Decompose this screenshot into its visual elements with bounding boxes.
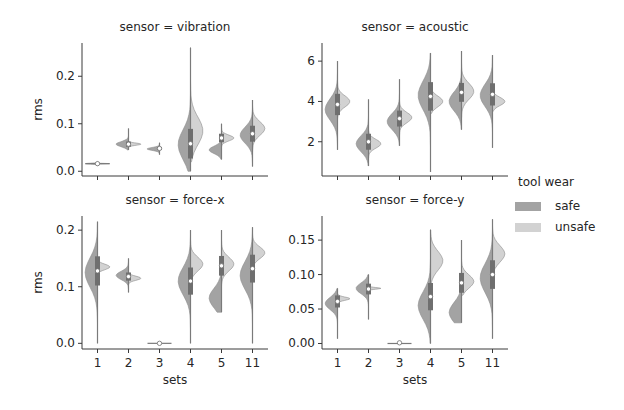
violin-half-safe (418, 53, 430, 172)
median-marker (428, 294, 432, 298)
median-marker (335, 299, 339, 303)
legend-title: tool wear (518, 175, 574, 189)
median-marker (219, 136, 223, 140)
violin-set-5 (449, 240, 474, 323)
y-tick-label: 0.1 (56, 280, 75, 294)
median-marker (459, 281, 463, 285)
x-tick-label: 11 (245, 356, 260, 370)
median-marker (95, 269, 99, 273)
median-marker (250, 266, 254, 270)
panel-force-y: sensor = force-y0.000.050.100.151234511s… (288, 193, 508, 387)
x-tick-label: 3 (156, 356, 164, 370)
y-axis-label: rms (31, 98, 45, 121)
x-tick-label: 4 (187, 356, 195, 370)
y-axis-label: rms (31, 271, 45, 294)
violin-set-11 (240, 227, 265, 343)
violin-half-safe (209, 129, 221, 160)
y-tick-label: 0.0 (56, 164, 75, 178)
violin-set-1 (85, 222, 110, 344)
violin-half-safe (356, 275, 368, 320)
median-marker (397, 341, 401, 345)
panel-title: sensor = acoustic (361, 20, 468, 34)
violin-set-2 (356, 99, 381, 166)
violin-set-4 (178, 230, 203, 343)
median-marker (188, 142, 192, 146)
y-tick-label: 0.15 (288, 233, 315, 247)
panel-acoustic: sensor = acoustic246 (307, 20, 508, 180)
violin-set-5 (449, 51, 474, 130)
median-marker (366, 287, 370, 291)
y-tick-label: 0.0 (56, 336, 75, 350)
violin-half-safe (240, 227, 252, 343)
panel-title: sensor = force-x (125, 193, 224, 207)
x-tick-label: 5 (458, 356, 466, 370)
violin-set-11 (480, 219, 505, 338)
violin-set-1 (85, 161, 110, 165)
violin-set-5 (209, 124, 234, 160)
median-marker (219, 264, 223, 268)
median-marker (188, 279, 192, 283)
median-marker (366, 140, 370, 144)
y-tick-label: 0.2 (56, 223, 75, 237)
violin-set-3 (388, 341, 412, 345)
violin-set-2 (356, 275, 381, 320)
median-marker (397, 116, 401, 120)
legend-label-unsafe: unsafe (555, 220, 595, 234)
y-tick-label: 0.05 (288, 302, 315, 316)
y-tick-label: 0.1 (56, 117, 75, 131)
violin-set-11 (480, 55, 505, 148)
median-marker (250, 132, 254, 136)
median-marker (126, 274, 130, 278)
violin-set-2 (116, 258, 141, 292)
violin-set-4 (418, 53, 442, 172)
violin-set-1 (325, 288, 350, 338)
panel-vibration: sensor = vibration0.00.10.2rms (31, 20, 268, 180)
violin-set-3 (148, 341, 172, 345)
median-marker (126, 142, 130, 146)
legend-label-safe: safe (555, 199, 580, 213)
median-marker (428, 94, 432, 98)
median-marker (490, 92, 494, 96)
x-axis-label: sets (403, 373, 428, 387)
legend-swatch-safe (515, 202, 541, 211)
y-tick-label: 0.10 (288, 268, 315, 282)
median-marker (335, 102, 339, 106)
x-tick-label: 2 (125, 356, 133, 370)
x-tick-label: 3 (396, 356, 404, 370)
panel-force-x: sensor = force-x0.00.10.2rms1234511sets (31, 193, 268, 387)
median-marker (490, 272, 494, 276)
x-tick-label: 1 (94, 356, 102, 370)
y-tick-label: 0.00 (288, 336, 315, 350)
x-tick-label: 5 (218, 356, 226, 370)
x-tick-label: 2 (365, 356, 373, 370)
violin-set-1 (325, 61, 350, 150)
legend-swatch-unsafe (515, 223, 541, 232)
x-tick-label: 4 (427, 356, 435, 370)
median-marker (157, 146, 161, 150)
median-marker (157, 341, 161, 345)
violin-set-4 (418, 230, 443, 344)
median-marker (459, 90, 463, 94)
panel-title: sensor = force-y (366, 193, 465, 207)
violin-set-3 (387, 79, 412, 146)
y-tick-label: 6 (307, 54, 315, 68)
y-tick-label: 4 (307, 94, 315, 108)
y-tick-label: 0.2 (56, 69, 75, 83)
violin-half-safe (356, 99, 368, 166)
violin-set-4 (178, 48, 203, 172)
violin-set-2 (116, 129, 141, 150)
violin-set-3 (147, 143, 162, 155)
x-axis-label: sets (163, 373, 188, 387)
legend-item-safe[interactable]: safe (515, 199, 580, 213)
median-marker (95, 161, 99, 165)
x-tick-label: 11 (485, 356, 500, 370)
panel-title: sensor = vibration (120, 20, 231, 34)
y-tick-label: 2 (307, 135, 315, 149)
legend-item-unsafe[interactable]: unsafe (515, 220, 595, 234)
violin-set-11 (240, 100, 265, 167)
x-tick-label: 1 (334, 356, 342, 370)
violin-set-5 (209, 230, 234, 312)
